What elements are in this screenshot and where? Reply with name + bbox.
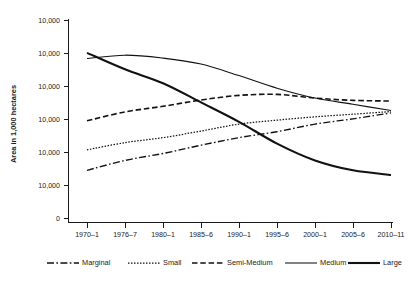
x-tick-label: 2000–1 [303, 231, 327, 239]
legend-label-small: Small [163, 258, 182, 267]
x-tick-label: 1995–6 [265, 231, 289, 239]
legend-item-medium[interactable]: Medium [285, 258, 346, 267]
line-chart: Area in 1,000 hectares 10,000 10,000 10,… [0, 0, 409, 282]
series-line-medium [87, 55, 391, 110]
x-axis-tick-labels: 1970–1 1976–7 1980–1 1985–6 1990–1 1995–… [75, 231, 404, 239]
chart-figure: Area in 1,000 hectares 10,000 10,000 10,… [0, 0, 409, 282]
x-tick-label: 1990–1 [227, 231, 251, 239]
y-axis-title: Area in 1,000 hectares [9, 85, 18, 163]
legend-label-semi-medium: Semi-Medium [227, 258, 273, 267]
legend-label-marginal: Marginal [82, 258, 111, 267]
series-line-large [87, 53, 391, 175]
series-line-small [87, 112, 391, 150]
legend-label-medium: Medium [320, 258, 346, 267]
y-tick-label: 10,000 [38, 149, 60, 157]
y-tick-label: 10,000 [38, 50, 60, 58]
x-tick-label: 1976–7 [113, 231, 137, 239]
y-tick-label: 0 [56, 215, 60, 223]
x-tick-label: 2010–11 [377, 231, 404, 239]
y-tick-label: 10,000 [38, 182, 60, 190]
legend-item-large[interactable]: Large [348, 258, 402, 267]
legend-item-marginal[interactable]: Marginal [47, 258, 111, 267]
y-tick-label: 10,000 [38, 116, 60, 124]
x-axis-ticks [88, 223, 392, 228]
x-tick-label: 1970–1 [75, 231, 99, 239]
legend-item-small[interactable]: Small [128, 258, 182, 267]
x-tick-label: 2005–6 [341, 231, 365, 239]
series-line-semi-medium [87, 94, 391, 121]
legend-label-large: Large [383, 258, 402, 267]
y-axis-ticks [64, 21, 69, 219]
y-tick-label: 10,000 [38, 83, 60, 91]
chart-legend: Marginal Small Semi-Medium Medium Large [47, 258, 402, 267]
y-axis-tick-labels: 10,000 10,000 10,000 10,000 10,000 10,00… [38, 17, 60, 223]
legend-item-semi-medium[interactable]: Semi-Medium [192, 258, 273, 267]
y-tick-label: 10,000 [38, 17, 60, 25]
series-layer [87, 53, 391, 175]
x-tick-label: 1980–1 [151, 231, 175, 239]
x-tick-label: 1985–6 [189, 231, 213, 239]
